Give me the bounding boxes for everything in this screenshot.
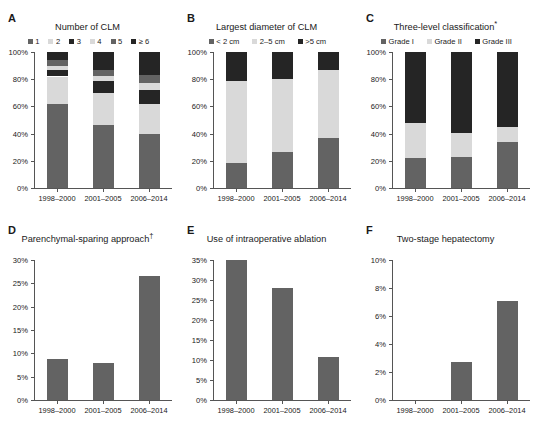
bar-segment	[451, 157, 472, 188]
stacked-bar	[93, 52, 114, 188]
y-axis-tick-label: 20%	[0, 156, 28, 165]
y-axis-tick	[31, 377, 34, 378]
y-axis-tick	[210, 188, 213, 189]
bar	[497, 301, 518, 400]
y-axis-tick-label: 0%	[0, 396, 28, 405]
y-axis-tick-label: 60%	[358, 102, 386, 111]
x-axis-tick-label: 1998–2000	[397, 194, 434, 203]
x-axis-tick	[328, 189, 329, 192]
y-axis-tick	[210, 320, 213, 321]
bar-segment	[93, 93, 114, 125]
bar	[318, 357, 339, 400]
y-axis-tick	[31, 79, 34, 80]
bar-segment	[272, 152, 293, 188]
y-axis-tick-label: 80%	[0, 75, 28, 84]
y-axis-tick	[389, 372, 392, 373]
bar	[47, 359, 68, 400]
x-axis-tick-label: 2006–2014	[310, 406, 347, 415]
y-axis-tick-label: 20%	[179, 156, 207, 165]
bar-segment	[93, 76, 114, 80]
x-axis-tick-label: 1998–2000	[397, 406, 434, 415]
bar-segment	[318, 138, 339, 188]
bar-segment	[93, 70, 114, 77]
bar-segment	[139, 52, 160, 75]
y-axis-tick-label: 4%	[358, 340, 386, 349]
x-axis-tick-label: 2006–2014	[310, 194, 347, 203]
y-axis-tick-label: 30%	[179, 276, 207, 285]
bar-segment	[47, 60, 68, 66]
y-axis-tick-label: 5%	[179, 376, 207, 385]
y-axis-tick-label: 15%	[0, 326, 28, 335]
y-axis-tick-label: 8%	[358, 284, 386, 293]
stacked-bar	[47, 52, 68, 188]
x-axis-tick	[507, 401, 508, 404]
y-axis-tick	[210, 52, 213, 53]
y-axis-tick	[389, 134, 392, 135]
bar-segment	[47, 77, 68, 104]
y-axis-tick-label: 80%	[358, 75, 386, 84]
x-axis-tick-label: 2001–2005	[264, 406, 301, 415]
y-axis-tick	[210, 300, 213, 301]
y-axis-line	[34, 260, 35, 400]
y-axis-line	[392, 260, 393, 400]
y-axis-line	[392, 52, 393, 188]
panel-a-plot: 0%20%40%60%80%100%1998–20002001–20052006…	[0, 4, 179, 216]
y-axis-tick	[389, 400, 392, 401]
x-axis-tick-label: 2006–2014	[131, 406, 168, 415]
y-axis-tick	[31, 106, 34, 107]
bar-segment	[139, 104, 160, 134]
y-axis-tick	[31, 400, 34, 401]
panel-f: F Two-stage hepatectomy 0%2%4%6%8%10%199…	[358, 216, 537, 428]
bar-segment	[226, 52, 247, 81]
y-axis-tick-label: 10%	[0, 349, 28, 358]
bar	[226, 260, 247, 400]
y-axis-tick-label: 0%	[358, 184, 386, 193]
y-axis-tick	[210, 161, 213, 162]
y-axis-tick	[31, 283, 34, 284]
y-axis-tick-label: 20%	[358, 156, 386, 165]
y-axis-tick	[31, 161, 34, 162]
y-axis-tick	[210, 380, 213, 381]
bar	[272, 288, 293, 400]
stacked-bar	[451, 52, 472, 188]
x-axis-tick	[57, 189, 58, 192]
panel-c-plot: 0%20%40%60%80%100%1998–20002001–20052006…	[358, 4, 537, 216]
panel-d-plot: 0%5%10%15%20%25%30%1998–20002001–2005200…	[0, 216, 179, 428]
y-axis-tick-label: 100%	[358, 48, 386, 57]
x-axis-tick-label: 1998–2000	[218, 194, 255, 203]
bar-segment	[226, 163, 247, 188]
y-axis-tick	[210, 79, 213, 80]
bar-segment	[405, 52, 426, 123]
y-axis-tick-label: 40%	[0, 129, 28, 138]
y-axis-tick-label: 10%	[358, 256, 386, 265]
bar-segment	[93, 52, 114, 70]
stacked-bar	[226, 52, 247, 188]
x-axis-tick	[103, 189, 104, 192]
x-axis-tick	[103, 401, 104, 404]
bar-segment	[93, 81, 114, 93]
y-axis-tick-label: 20%	[179, 316, 207, 325]
y-axis-tick-label: 20%	[0, 302, 28, 311]
y-axis-tick-label: 30%	[0, 256, 28, 265]
x-axis-tick-label: 2006–2014	[489, 194, 526, 203]
y-axis-tick-label: 40%	[358, 129, 386, 138]
stacked-bar	[318, 52, 339, 188]
x-axis-tick-label: 2006–2014	[131, 194, 168, 203]
y-axis-tick-label: 0%	[358, 396, 386, 405]
y-axis-tick-label: 100%	[0, 48, 28, 57]
y-axis-tick	[389, 316, 392, 317]
bar-segment	[405, 158, 426, 188]
panel-b: B Largest diameter of CLM < 2 cm2–5 cm>5…	[179, 4, 358, 216]
x-axis-tick	[328, 401, 329, 404]
bar-segment	[497, 142, 518, 188]
bar-segment	[47, 104, 68, 188]
y-axis-tick-label: 80%	[179, 75, 207, 84]
bar-segment	[272, 52, 293, 79]
y-axis-tick-label: 10%	[179, 356, 207, 365]
y-axis-tick	[210, 260, 213, 261]
y-axis-tick-label: 0%	[179, 396, 207, 405]
y-axis-tick-label: 2%	[358, 368, 386, 377]
bar-segment	[497, 127, 518, 143]
y-axis-tick	[210, 400, 213, 401]
y-axis-tick	[389, 161, 392, 162]
